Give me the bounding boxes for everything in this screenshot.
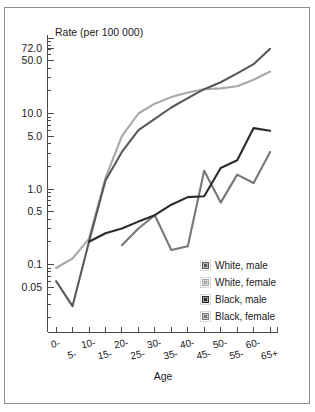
y-tick-group [48,38,54,317]
legend-swatch [201,278,210,287]
series-line-black-male [89,128,270,242]
x-tick-label: 50- [212,337,228,351]
legend-label: Black, female [215,311,275,322]
legend-item[interactable]: Black, male [201,292,301,307]
x-tick-label: 65+ [260,347,279,361]
figure-frame: 72.050.010.05.01.00.50.10.05 0-5-10-15-2… [4,7,310,404]
legend-item[interactable]: White, male [201,258,301,273]
y-tick-label: 0.05 [22,281,43,293]
plot-title: Rate (per 100 000) [55,26,143,38]
x-axis-title: Age [154,370,173,382]
x-tick-label: 60- [245,337,261,351]
y-tick-label: 1.0 [27,183,42,195]
x-tick-label-group: 0-5-10-15-20-25-30-35-40-45-50-55-60-65+ [50,337,279,362]
x-tick-label: 25- [129,348,145,362]
x-tick-label: 55- [228,348,244,362]
x-tick-label: 20- [113,337,129,351]
x-tick-label: 5- [66,348,77,361]
y-tick-label: 50.0 [22,54,43,66]
chart-legend: White, maleWhite, femaleBlack, maleBlack… [201,258,301,326]
x-tick-label: 40- [179,337,195,351]
x-tick-label: 10- [80,337,96,351]
x-tick-label: 0- [50,337,61,350]
figure-container: 72.050.010.05.01.00.50.10.05 0-5-10-15-2… [0,0,315,412]
x-tick-label: 45- [195,348,211,362]
legend-item[interactable]: White, female [201,275,301,290]
legend-label: Black, male [215,294,267,305]
y-tick-label: 0.1 [27,258,42,270]
legend-swatch [201,295,210,304]
y-tick-label: 5.0 [27,130,42,142]
series-line-white-female [56,72,270,269]
y-tick-label: 72.0 [22,42,43,54]
y-tick-label: 0.5 [27,205,42,217]
legend-item[interactable]: Black, female [201,309,301,324]
legend-label: White, male [215,260,268,271]
legend-swatch [201,261,210,270]
legend-swatch [201,312,210,321]
x-tick-label: 35- [162,348,178,362]
x-tick-label: 30- [146,337,162,351]
x-tick-label: 15- [97,348,113,362]
legend-label: White, female [215,277,276,288]
x-tick-group [56,327,277,333]
series-line-black-female [122,152,270,250]
y-tick-label: 10.0 [22,107,43,119]
y-tick-label-group: 72.050.010.05.01.00.50.10.05 [22,42,43,292]
line-chart: 72.050.010.05.01.00.50.10.05 0-5-10-15-2… [5,8,311,405]
